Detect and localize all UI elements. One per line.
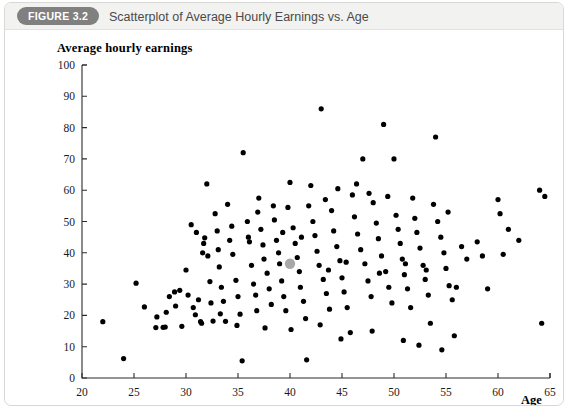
data-point bbox=[362, 261, 367, 266]
y-tick-label: 20 bbox=[64, 309, 76, 321]
data-point bbox=[365, 278, 370, 283]
data-point bbox=[441, 250, 446, 255]
data-point bbox=[310, 219, 315, 224]
data-point bbox=[285, 205, 290, 210]
data-point bbox=[350, 192, 355, 197]
x-tick-label: 60 bbox=[492, 386, 504, 398]
data-point bbox=[360, 156, 365, 161]
y-tick-label: 60 bbox=[64, 184, 76, 196]
data-point bbox=[423, 277, 428, 282]
data-point bbox=[416, 343, 421, 348]
data-point bbox=[217, 264, 222, 269]
y-tick-label: 80 bbox=[64, 122, 76, 134]
y-tick-label: 70 bbox=[64, 153, 76, 165]
data-point bbox=[245, 219, 250, 224]
data-point bbox=[410, 195, 415, 200]
data-point bbox=[261, 256, 266, 261]
scatterplot-area: Average hourly earnings Age 010203040506… bbox=[5, 30, 564, 406]
data-point bbox=[386, 285, 391, 290]
data-point bbox=[189, 222, 194, 227]
data-point bbox=[319, 106, 324, 111]
x-tick-label: 20 bbox=[76, 386, 88, 398]
data-point bbox=[183, 267, 188, 272]
data-point bbox=[291, 225, 296, 230]
data-point bbox=[201, 241, 206, 246]
y-tick-label: 40 bbox=[64, 247, 76, 259]
data-point bbox=[223, 319, 228, 324]
x-tick-label: 35 bbox=[232, 386, 244, 398]
data-point bbox=[421, 263, 426, 268]
data-point bbox=[480, 253, 485, 258]
data-point bbox=[339, 275, 344, 280]
y-tick-label: 0 bbox=[69, 372, 75, 384]
data-point bbox=[202, 235, 207, 240]
data-point bbox=[301, 299, 306, 304]
data-point bbox=[262, 325, 267, 330]
data-point bbox=[200, 250, 205, 255]
x-tick-label: 50 bbox=[388, 386, 400, 398]
data-point bbox=[204, 181, 209, 186]
data-point bbox=[167, 294, 172, 299]
data-point bbox=[344, 260, 349, 265]
data-point bbox=[235, 294, 240, 299]
data-point bbox=[153, 325, 158, 330]
data-point bbox=[269, 302, 274, 307]
data-point bbox=[306, 203, 311, 208]
data-point bbox=[537, 188, 542, 193]
data-point bbox=[431, 202, 436, 207]
data-point bbox=[338, 336, 343, 341]
data-point bbox=[443, 266, 448, 271]
data-point bbox=[450, 297, 455, 302]
y-tick-labels: 0102030405060708090100 bbox=[58, 59, 76, 384]
data-point bbox=[383, 269, 388, 274]
data-point bbox=[391, 156, 396, 161]
data-point bbox=[277, 261, 282, 266]
data-point bbox=[323, 197, 328, 202]
data-point bbox=[464, 256, 469, 261]
data-point bbox=[247, 239, 252, 244]
data-point bbox=[348, 330, 353, 335]
data-point bbox=[389, 300, 394, 305]
data-point bbox=[164, 310, 169, 315]
data-point bbox=[254, 308, 259, 313]
data-point bbox=[172, 289, 177, 294]
data-point bbox=[297, 269, 302, 274]
data-point bbox=[142, 304, 147, 309]
data-point bbox=[280, 230, 285, 235]
data-point bbox=[376, 236, 381, 241]
data-point bbox=[516, 238, 521, 243]
data-point bbox=[219, 285, 224, 290]
data-point bbox=[121, 356, 126, 361]
data-point bbox=[308, 183, 313, 188]
x-tick-label: 65 bbox=[544, 386, 556, 398]
data-point bbox=[260, 242, 265, 247]
data-point bbox=[279, 278, 284, 283]
data-point bbox=[393, 213, 398, 218]
data-point bbox=[100, 319, 105, 324]
data-point bbox=[396, 227, 401, 232]
data-point bbox=[497, 211, 502, 216]
data-point bbox=[271, 203, 276, 208]
data-point bbox=[459, 244, 464, 249]
figure-title: Scatterplot of Average Hourly Earnings v… bbox=[109, 8, 369, 26]
data-point bbox=[221, 299, 226, 304]
data-point bbox=[177, 288, 182, 293]
data-point bbox=[501, 252, 506, 257]
data-point bbox=[227, 238, 232, 243]
data-point bbox=[191, 305, 196, 310]
data-point bbox=[255, 210, 260, 215]
data-point bbox=[185, 292, 190, 297]
data-point bbox=[213, 211, 218, 216]
data-point bbox=[281, 294, 286, 299]
data-point bbox=[251, 282, 256, 287]
data-point bbox=[326, 267, 331, 272]
data-point bbox=[208, 300, 213, 305]
data-point bbox=[454, 285, 459, 290]
x-tick-label: 55 bbox=[440, 386, 452, 398]
data-point bbox=[358, 247, 363, 252]
data-point bbox=[240, 358, 245, 363]
data-point bbox=[433, 134, 438, 139]
data-point bbox=[435, 219, 440, 224]
data-point bbox=[337, 258, 342, 263]
ticks-group bbox=[82, 65, 550, 378]
